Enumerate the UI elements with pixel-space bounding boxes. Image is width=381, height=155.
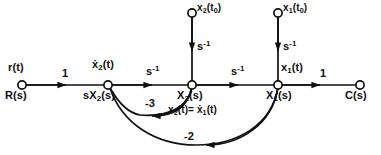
node-x2-lower-label: X2(s)	[177, 90, 203, 103]
source-node-ic2-label: x2(t0)	[197, 3, 221, 14]
node-input-lower-label: R(s)	[5, 90, 27, 101]
gain-label-feedback-minus-3: -3	[145, 98, 155, 109]
node-x1-upper-label: x1(t)	[281, 62, 303, 75]
gain-label-x2dot-to-x2: s-1	[146, 65, 159, 77]
source-node-ic1-label: x1(t0)	[283, 3, 307, 14]
node-ic1-source	[274, 9, 282, 17]
node-x2dot-lower-label: sX2(s)	[83, 90, 115, 103]
node-x2dot	[104, 81, 112, 89]
node-x1-lower-label: X1(s)	[266, 90, 292, 103]
gain-label-x1-to-output: 1	[320, 68, 326, 79]
node-output	[356, 81, 364, 89]
node-x2	[188, 81, 196, 89]
node-output-lower-label: C(s)	[345, 90, 367, 101]
node-ic2-source	[188, 9, 196, 17]
node-input-upper-label: r(t)	[8, 62, 24, 73]
node-x2dot-upper-label: ẋ2(t)	[92, 59, 114, 72]
gain-label-feedback-minus-2: -2	[184, 131, 194, 142]
x2-identity-annotation: x2(t)= ẋ1(t)	[168, 105, 217, 116]
node-x1	[274, 81, 282, 89]
signal-flow-graph-figure: r(t) R(s) ẋ2(t) sX2(s) X2(s) x2(t)= ẋ1…	[0, 0, 381, 155]
gain-label-ic1-to-x1: s-1	[283, 40, 296, 52]
gain-label-x2-to-x1: s-1	[231, 65, 244, 77]
gain-label-input-to-x2dot: 1	[62, 68, 68, 79]
gain-label-ic2-to-x2: s-1	[197, 40, 210, 52]
node-input	[18, 81, 26, 89]
